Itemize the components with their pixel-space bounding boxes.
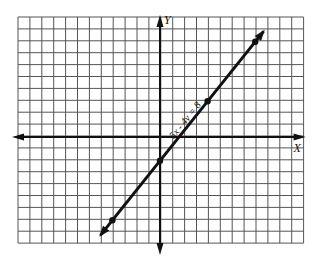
data-point (252, 39, 258, 45)
plotted-line (99, 30, 265, 237)
data-point (204, 98, 210, 104)
coordinate-graph: X Y 5x - 4y = 8 (0, 0, 319, 258)
data-point (157, 158, 163, 164)
y-axis-arrow-down-icon (157, 243, 164, 255)
data-point (109, 217, 115, 223)
x-axis-label: X (293, 141, 302, 155)
y-axis-label: Y (164, 13, 172, 27)
